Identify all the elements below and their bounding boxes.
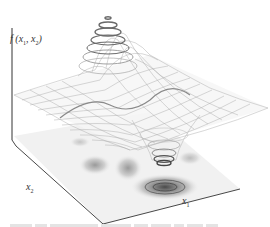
z-axis-label: f (x1, x2) [10, 33, 42, 46]
figure-caption-faded [10, 215, 260, 223]
surface-plot-figure: f (x1, x2) x2 x1 [0, 0, 270, 227]
x2-axis-label: x2 [26, 181, 33, 194]
x1-axis-label: x1 [182, 195, 189, 208]
